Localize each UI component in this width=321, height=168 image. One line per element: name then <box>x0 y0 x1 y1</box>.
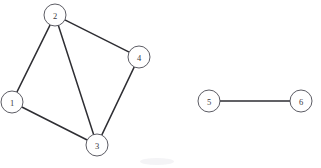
node-label-6: 6 <box>299 97 303 107</box>
graph-node-1[interactable]: 1 <box>1 91 23 113</box>
node-label-1: 1 <box>10 98 14 108</box>
graph-node-5[interactable]: 5 <box>198 90 220 112</box>
graph-node-3[interactable]: 3 <box>86 134 108 156</box>
node-label-5: 5 <box>207 97 211 107</box>
graph-node-4[interactable]: 4 <box>128 46 150 68</box>
graph-edge-2-3 <box>58 25 93 134</box>
scan-artifact <box>140 158 174 165</box>
edges-layer <box>17 20 290 140</box>
graph-edge-2-4 <box>65 20 129 52</box>
graph-diagram: 123456 <box>0 0 321 168</box>
node-label-2: 2 <box>53 11 57 21</box>
node-label-3: 3 <box>95 141 99 151</box>
graph-node-2[interactable]: 2 <box>44 4 66 26</box>
graph-node-6[interactable]: 6 <box>290 90 312 112</box>
graph-edge-3-4 <box>102 67 135 135</box>
graph-edge-1-2 <box>17 25 50 92</box>
nodes-layer: 123456 <box>1 4 312 156</box>
graph-edge-1-3 <box>22 107 87 140</box>
